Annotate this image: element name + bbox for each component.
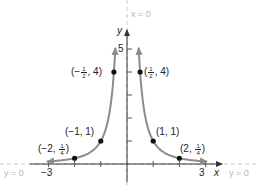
data-point [151,138,156,143]
data-point [98,138,103,143]
horizontal-asymptote-label-left: y = 0 [4,168,24,178]
point-label-pos-half-4: (12, 4) [144,66,169,79]
data-point [177,156,182,161]
vertical-asymptote-label: x = 0 [131,9,151,19]
data-point [72,156,77,161]
y-axis-label: y [117,26,122,36]
tick-label-5: 5 [118,44,124,54]
tick-label-3: 3 [199,168,205,178]
data-point [138,69,143,74]
reciprocal-square-graph [0,0,257,185]
point-label-pos2-quarter: (2, 14) [180,143,205,156]
point-label-neg-half-4: (−12, 4) [71,66,102,79]
x-axis-label: x [214,168,219,178]
data-point [111,69,116,74]
point-label-neg1-1: (−1, 1) [65,127,94,137]
horizontal-asymptote-label-right: y = 0 [229,168,249,178]
tick-label-neg3: −3 [41,168,52,178]
point-label-neg2-quarter: (−2, 14) [38,143,69,156]
point-label-pos1-1: (1, 1) [156,127,179,137]
